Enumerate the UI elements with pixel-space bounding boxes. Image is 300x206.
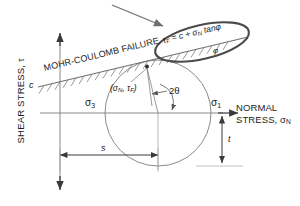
dimension-s-label: s <box>101 144 106 153</box>
mohr-coulomb-diagram: SHEAR STRESS, τ NORMAL STRESS, σN c σ3 σ… <box>0 0 300 206</box>
x-axis-label-text: NORMAL STRESS, σ <box>236 102 286 125</box>
pointer-arrow <box>112 5 163 26</box>
failure-point-close: ) <box>134 83 137 93</box>
y-axis-label: SHEAR STRESS, τ <box>16 46 26 156</box>
failure-point-open: (σ <box>110 83 118 93</box>
sigma3-label: σ3 <box>85 98 95 109</box>
failure-point-label: (σN, τF) <box>110 84 137 94</box>
dimension-t-label: t <box>228 135 231 144</box>
x-axis-label-sub: N <box>286 118 291 125</box>
sigma3-sub: 3 <box>91 102 95 109</box>
cohesion-intercept-label: c <box>29 81 34 90</box>
failure-point-mid: , τ <box>122 83 130 93</box>
sigma1-sub: 1 <box>217 102 221 109</box>
two-theta-label: 2θ <box>169 86 180 96</box>
friction-angle-label: φ <box>213 47 218 55</box>
failure-point-marker <box>145 65 149 69</box>
sigma1-label: σ1 <box>211 98 221 109</box>
dimension-s <box>60 148 158 172</box>
x-axis-label: NORMAL STRESS, σN <box>236 102 298 127</box>
